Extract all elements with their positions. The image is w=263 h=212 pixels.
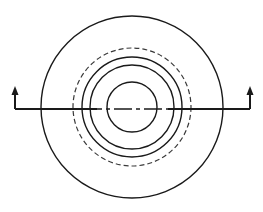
bore-circle xyxy=(107,82,157,132)
section-view-svg xyxy=(0,0,263,212)
technical-drawing-canvas xyxy=(0,0,263,212)
section-marker-left-arrowhead xyxy=(12,86,19,95)
outer-boundary-circle xyxy=(41,16,223,198)
inner-ring-circle xyxy=(90,65,174,149)
outer-ring-circle xyxy=(82,57,182,157)
section-marker-right-arrowhead xyxy=(247,86,254,95)
section-marker-left xyxy=(12,86,98,109)
